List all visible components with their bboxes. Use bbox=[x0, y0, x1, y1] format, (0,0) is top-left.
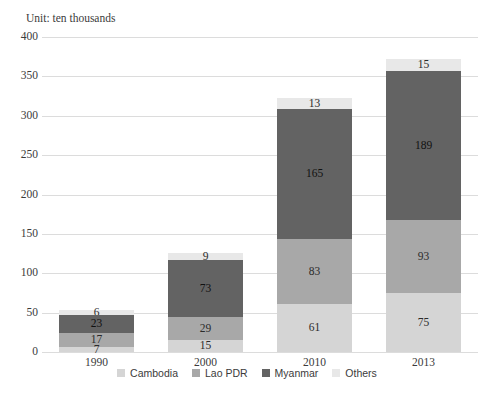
y-tick-label-100: 100 bbox=[4, 267, 38, 279]
bar-value-label: 165 bbox=[306, 168, 323, 180]
gridline-0 bbox=[42, 352, 478, 353]
x-tick-label-2000: 2000 bbox=[151, 356, 260, 368]
bar-segment-lao-pdr-2010[interactable]: 83 bbox=[277, 239, 352, 304]
bar-value-label: 83 bbox=[309, 266, 321, 278]
bar-segment-myanmar-2013[interactable]: 189 bbox=[386, 71, 461, 220]
bar-stack: 9732915 bbox=[168, 253, 243, 352]
bar-segment-others-2010[interactable]: 13 bbox=[277, 98, 352, 108]
legend-label: Lao PDR bbox=[205, 368, 248, 379]
bar-segment-cambodia-2013[interactable]: 75 bbox=[386, 293, 461, 352]
y-tick-label-50: 50 bbox=[4, 307, 38, 319]
bar-segment-myanmar-1990[interactable]: 23 bbox=[59, 315, 134, 333]
plot-area: 6231779732915131658361151899375 bbox=[42, 37, 478, 352]
bar-stack: 151899375 bbox=[386, 59, 461, 352]
legend-swatch-icon bbox=[117, 369, 125, 377]
bar-segment-lao-pdr-2013[interactable]: 93 bbox=[386, 220, 461, 293]
bar-segment-cambodia-1990[interactable]: 7 bbox=[59, 347, 134, 353]
bar-value-label: 23 bbox=[91, 318, 103, 330]
legend-label: Cambodia bbox=[130, 368, 178, 379]
y-tick-label-300: 300 bbox=[4, 110, 38, 122]
bar-segment-cambodia-2000[interactable]: 15 bbox=[168, 340, 243, 352]
y-tick-label-0: 0 bbox=[4, 346, 38, 358]
y-tick-label-250: 250 bbox=[4, 149, 38, 161]
bar-value-label: 73 bbox=[200, 283, 212, 295]
bar-value-label: 93 bbox=[418, 251, 430, 263]
chart-legend: CambodiaLao PDRMyanmarOthers bbox=[0, 368, 494, 379]
bar-value-label: 7 bbox=[94, 344, 100, 356]
bar-segment-cambodia-2010[interactable]: 61 bbox=[277, 304, 352, 352]
bar-value-label: 13 bbox=[309, 98, 321, 110]
y-tick-label-400: 400 bbox=[4, 31, 38, 43]
legend-swatch-icon bbox=[332, 369, 340, 377]
stacked-bar-chart: Unit: ten thousands 05010015020025030035… bbox=[0, 0, 494, 396]
y-tick-label-200: 200 bbox=[4, 189, 38, 201]
x-tick-label-1990: 1990 bbox=[42, 356, 151, 368]
bar-segment-myanmar-2000[interactable]: 73 bbox=[168, 260, 243, 317]
legend-swatch-icon bbox=[192, 369, 200, 377]
bar-segment-others-2000[interactable]: 9 bbox=[168, 253, 243, 260]
bar-value-label: 61 bbox=[309, 322, 321, 334]
bar-group-2010[interactable]: 131658361 bbox=[277, 37, 352, 352]
bar-segment-lao-pdr-2000[interactable]: 29 bbox=[168, 317, 243, 340]
y-axis-tick-labels: 050100150200250300350400 bbox=[0, 37, 38, 352]
legend-swatch-icon bbox=[262, 369, 270, 377]
x-tick-label-2010: 2010 bbox=[260, 356, 369, 368]
bar-group-2013[interactable]: 151899375 bbox=[386, 37, 461, 352]
legend-item-lao-pdr[interactable]: Lao PDR bbox=[192, 368, 248, 379]
bar-group-2000[interactable]: 9732915 bbox=[168, 37, 243, 352]
bar-value-label: 15 bbox=[418, 59, 430, 71]
bar-stack: 131658361 bbox=[277, 98, 352, 352]
x-tick-label-2013: 2013 bbox=[369, 356, 478, 368]
bar-stack: 623177 bbox=[59, 310, 134, 352]
unit-note: Unit: ten thousands bbox=[26, 12, 115, 24]
bar-value-label: 29 bbox=[200, 323, 212, 335]
bar-value-label: 75 bbox=[418, 317, 430, 329]
bar-value-label: 15 bbox=[200, 340, 212, 352]
y-tick-label-350: 350 bbox=[4, 70, 38, 82]
bar-value-label: 189 bbox=[415, 140, 432, 152]
legend-item-cambodia[interactable]: Cambodia bbox=[117, 368, 178, 379]
legend-label: Myanmar bbox=[275, 368, 319, 379]
bar-segment-myanmar-2010[interactable]: 165 bbox=[277, 109, 352, 239]
legend-item-myanmar[interactable]: Myanmar bbox=[262, 368, 319, 379]
bar-segment-others-2013[interactable]: 15 bbox=[386, 59, 461, 71]
y-tick-label-150: 150 bbox=[4, 228, 38, 240]
bar-group-1990[interactable]: 623177 bbox=[59, 37, 134, 352]
legend-label: Others bbox=[345, 368, 377, 379]
legend-item-others[interactable]: Others bbox=[332, 368, 377, 379]
